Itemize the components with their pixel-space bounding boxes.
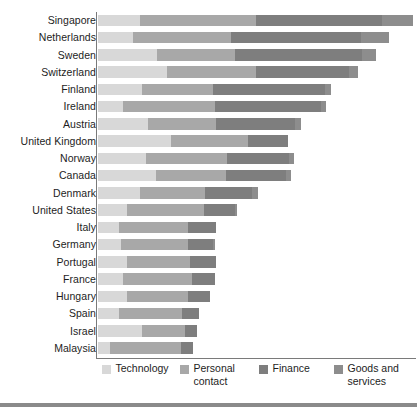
- bar-segment-personal-contact: [119, 222, 188, 234]
- bar-segment-technology: [98, 153, 147, 165]
- bar-row: Finland: [0, 81, 417, 98]
- bar-segment-goods-and-services: [235, 204, 237, 216]
- stacked-bar: [98, 153, 295, 165]
- bar-segment-technology: [98, 256, 128, 268]
- legend-item-technology: Technology: [102, 362, 169, 375]
- bar-segment-personal-contact: [140, 187, 204, 199]
- stacked-bar: [98, 342, 194, 354]
- category-label: Finland: [61, 81, 96, 98]
- bar-row: Ireland: [0, 98, 417, 115]
- stacked-bar: [98, 291, 211, 303]
- bar-segment-technology: [98, 291, 128, 303]
- bar-segment-finance: [188, 291, 210, 303]
- bar-segment-personal-contact: [110, 342, 180, 354]
- chart-legend: Technology Personal contact Finance Good…: [96, 362, 417, 396]
- stacked-bar: [98, 308, 200, 320]
- legend-item-personal-contact: Personal contact: [180, 362, 252, 387]
- bar-segment-personal-contact: [127, 204, 204, 216]
- bar-segment-personal-contact: [140, 15, 256, 27]
- bar-row: Portugal: [0, 254, 417, 271]
- bar-segment-technology: [98, 32, 134, 44]
- bar-segment-goods-and-services: [321, 101, 327, 113]
- bar-segment-personal-contact: [123, 101, 215, 113]
- stacked-bar: [98, 222, 217, 234]
- bar-row: United States: [0, 202, 417, 219]
- bar-segment-finance: [256, 15, 382, 27]
- bar-row: United Kingdom: [0, 133, 417, 150]
- category-label: Spain: [69, 305, 96, 322]
- bar-segment-technology: [98, 342, 111, 354]
- bar-segment-finance: [231, 32, 362, 44]
- bar-segment-technology: [98, 222, 120, 234]
- bar-segment-finance: [204, 204, 235, 216]
- bar-segment-technology: [98, 325, 142, 337]
- bar-segment-technology: [98, 135, 171, 147]
- bar-row: France: [0, 271, 417, 288]
- bar-segment-personal-contact: [142, 84, 212, 96]
- bar-row: Switzerland: [0, 64, 417, 81]
- bar-segment-personal-contact: [127, 256, 190, 268]
- bar-segment-goods-and-services: [289, 153, 294, 165]
- legend-item-goods-and-services: Goods and services: [334, 362, 406, 387]
- bar-segment-personal-contact: [167, 66, 256, 78]
- stacked-bar: [98, 135, 288, 147]
- bar-segment-finance: [226, 170, 286, 182]
- category-label: United Kingdom: [21, 133, 96, 150]
- bar-segment-personal-contact: [171, 135, 248, 147]
- category-label: Denmark: [53, 185, 96, 202]
- bar-segment-finance: [190, 256, 215, 268]
- category-label: Singapore: [48, 12, 96, 29]
- bar-segment-technology: [98, 118, 149, 130]
- category-label: Malaysia: [54, 340, 96, 357]
- bar-segment-personal-contact: [156, 170, 226, 182]
- bar-rows: SingaporeNetherlandsSwedenSwitzerlandFin…: [0, 12, 417, 357]
- bar-row: Norway: [0, 150, 417, 167]
- bar-row: Israel: [0, 323, 417, 340]
- bar-segment-goods-and-services: [325, 84, 331, 96]
- footer-rule: [0, 403, 417, 407]
- bar-row: Malaysia: [0, 340, 417, 357]
- bar-segment-goods-and-services: [286, 170, 291, 182]
- bar-segment-finance: [216, 118, 295, 130]
- bar-segment-personal-contact: [157, 49, 235, 61]
- bar-segment-personal-contact: [133, 32, 230, 44]
- bar-segment-personal-contact: [142, 325, 186, 337]
- legend-label-technology: Technology: [116, 362, 169, 375]
- bar-segment-finance: [182, 308, 200, 320]
- bar-segment-finance: [248, 135, 288, 147]
- bar-row: Spain: [0, 305, 417, 322]
- stacked-bar: [98, 239, 216, 251]
- bar-segment-personal-contact: [127, 291, 188, 303]
- bar-row: Sweden: [0, 47, 417, 64]
- legend-swatch-technology: [102, 365, 111, 374]
- stacked-bar-chart: SingaporeNetherlandsSwedenSwitzerlandFin…: [0, 0, 417, 413]
- bar-segment-technology: [98, 273, 124, 285]
- bar-row: Hungary: [0, 288, 417, 305]
- legend-label-personal-contact: Personal contact: [194, 362, 252, 387]
- bar-segment-goods-and-services: [349, 66, 358, 78]
- legend-item-finance: Finance: [259, 362, 310, 375]
- bar-segment-technology: [98, 15, 141, 27]
- bar-segment-finance: [185, 325, 197, 337]
- legend-swatch-finance: [259, 365, 268, 374]
- bar-segment-personal-contact: [119, 308, 182, 320]
- stacked-bar: [98, 170, 291, 182]
- bar-segment-goods-and-services: [295, 118, 302, 130]
- category-label: France: [63, 271, 96, 288]
- stacked-bar: [98, 66, 359, 78]
- bar-row: Canada: [0, 167, 417, 184]
- stacked-bar: [98, 101, 327, 113]
- legend-swatch-goods-and-services: [334, 365, 343, 374]
- bar-segment-technology: [98, 66, 168, 78]
- category-label: Israel: [70, 323, 96, 340]
- bar-segment-technology: [98, 49, 157, 61]
- category-label: Norway: [60, 150, 96, 167]
- bar-segment-goods-and-services: [252, 187, 258, 199]
- stacked-bar: [98, 273, 215, 285]
- stacked-bar: [98, 118, 302, 130]
- bar-segment-finance: [256, 66, 349, 78]
- legend-swatch-personal-contact: [180, 365, 189, 374]
- bar-segment-technology: [98, 239, 122, 251]
- stacked-bar: [98, 187, 258, 199]
- bar-segment-technology: [98, 187, 141, 199]
